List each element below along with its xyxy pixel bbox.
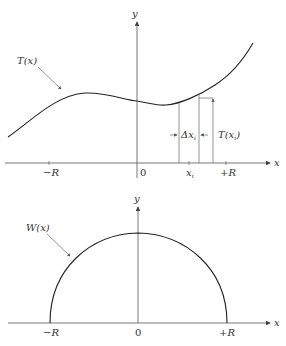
bottom-plot: x y W(x) −R 0 +R	[8, 193, 280, 338]
top-y-axis-label: y	[131, 8, 138, 19]
top-label-xi: xi	[186, 167, 194, 179]
bottom-y-axis-label: y	[133, 193, 140, 204]
top-label-zero: 0	[140, 167, 146, 178]
top-x-axis-label: x	[274, 157, 280, 168]
diagram-canvas: x y T(x) Δxi T(xi) −R 0 xi +R x y	[0, 0, 286, 346]
top-plot: x y T(x) Δxi T(xi) −R 0 xi +R	[5, 8, 280, 179]
w-label-arrow	[47, 234, 70, 256]
bottom-label-pos-r: +R	[219, 327, 235, 338]
top-label-neg-r: −R	[43, 167, 59, 178]
t-xi-label: T(xi)	[218, 129, 240, 141]
t-curve	[8, 43, 253, 137]
delta-xi-label: Δxi	[180, 129, 196, 141]
top-label-pos-r: +R	[220, 167, 236, 178]
w-curve-label: W(x)	[26, 222, 50, 233]
bottom-label-neg-r: −R	[43, 327, 59, 338]
t-label-arrow	[38, 67, 61, 89]
t-curve-label: T(x)	[17, 55, 37, 66]
bottom-x-axis-label: x	[274, 317, 280, 328]
w-curve	[50, 233, 227, 323]
bottom-label-zero: 0	[135, 327, 141, 338]
